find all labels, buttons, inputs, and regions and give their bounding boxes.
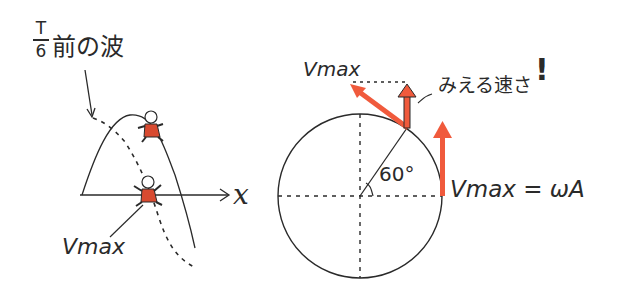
vmax-label-top: Vmax: [303, 57, 360, 81]
fraction-denominator: 6: [34, 43, 48, 60]
particle-figure-bottom: [134, 176, 162, 206]
vmax-leader-line: [110, 205, 143, 237]
particle-figure-top: [138, 111, 163, 142]
exclamation-mark: !: [535, 52, 549, 87]
pointer-line: [85, 70, 92, 115]
wave-diagram: T 6 前の波 x Vmax Vmax みえる速さ ! 60° Vmax = ω…: [0, 0, 617, 298]
angle-label: 60°: [379, 162, 414, 186]
vmax-equation: Vmax = ωA: [450, 176, 585, 202]
visible-speed-label: みえる速さ: [438, 70, 532, 97]
visible-speed-leader: [418, 94, 432, 103]
tangent-velocity-arrow: [350, 84, 408, 128]
fraction-numerator: T: [34, 20, 48, 37]
previous-wave-caption: 前の波: [52, 27, 124, 62]
x-axis-label: x: [233, 178, 249, 211]
current-wave: [82, 115, 195, 248]
vmax-label-left: Vmax: [62, 234, 125, 259]
